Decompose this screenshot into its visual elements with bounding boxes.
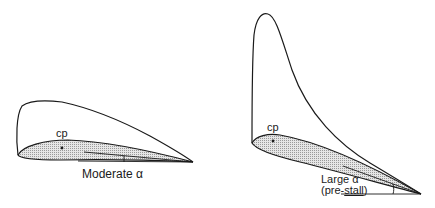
large-alpha-panel — [252, 14, 421, 194]
moderate-cp-label: cp — [56, 127, 68, 139]
paren-suffix: ) — [364, 184, 368, 196]
moderate-alpha-panel — [17, 101, 193, 162]
pre-prefix: (pre- — [321, 184, 344, 196]
pressure-distribution-diagram — [0, 0, 435, 208]
moderate-cp-dot — [61, 147, 64, 150]
large-cp-dot — [272, 140, 275, 143]
large-alpha-label-line2: (pre-stall) — [321, 184, 367, 196]
moderate-alpha-label: Moderate α — [82, 168, 143, 180]
large-cp-label: cp — [267, 121, 279, 133]
large-alpha-arc — [393, 184, 394, 194]
stall-underlined: stall — [344, 184, 364, 196]
moderate-airfoil — [18, 140, 193, 162]
